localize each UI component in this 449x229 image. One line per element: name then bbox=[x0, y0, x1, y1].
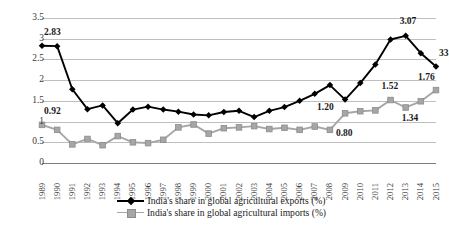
legend-swatch-imports bbox=[117, 208, 144, 217]
square-marker-icon bbox=[357, 108, 363, 114]
square-marker-icon bbox=[267, 126, 273, 132]
square-marker-icon bbox=[373, 108, 379, 114]
diamond-marker-icon bbox=[236, 108, 243, 115]
square-marker-icon bbox=[327, 127, 333, 133]
square-marker-icon bbox=[433, 87, 439, 93]
square-marker-icon bbox=[145, 140, 151, 146]
diamond-marker-icon bbox=[296, 98, 303, 105]
diamond-marker-icon bbox=[160, 106, 167, 113]
square-marker-icon bbox=[54, 127, 60, 133]
y-axis-tick-label: 2 bbox=[14, 75, 44, 85]
square-marker-icon bbox=[282, 125, 288, 131]
square-marker-icon bbox=[403, 105, 409, 111]
square-marker-icon bbox=[130, 139, 136, 145]
data-point-label: 0.92 bbox=[44, 107, 61, 117]
square-marker-icon bbox=[251, 123, 257, 129]
plot-area bbox=[42, 18, 436, 163]
y-axis-tick-label: 0 bbox=[14, 158, 44, 168]
diamond-marker-icon bbox=[205, 112, 212, 119]
chart-legend: India's share in global agricultural exp… bbox=[0, 196, 443, 217]
diamond-marker-icon bbox=[221, 109, 228, 116]
y-axis-tick-label: 3.5 bbox=[14, 13, 44, 23]
series-imports bbox=[39, 87, 439, 148]
square-marker-icon bbox=[70, 142, 76, 148]
data-point-label: 1.34 bbox=[402, 114, 419, 124]
diamond-marker-icon bbox=[281, 104, 288, 111]
legend-item-imports[interactable]: India's share in global agricultural imp… bbox=[117, 208, 326, 218]
series-exports bbox=[39, 33, 440, 127]
square-marker-icon bbox=[127, 209, 136, 218]
square-marker-icon bbox=[221, 125, 227, 131]
square-marker-icon bbox=[85, 136, 91, 142]
legend-item-exports[interactable]: India's share in global agricultural exp… bbox=[117, 196, 325, 206]
legend-label-exports: India's share in global agricultural exp… bbox=[147, 196, 325, 206]
diamond-marker-icon bbox=[39, 43, 46, 50]
data-point-label: 1.20 bbox=[317, 103, 334, 113]
diamond-marker-icon bbox=[54, 43, 61, 50]
series-layer bbox=[42, 18, 436, 163]
square-marker-icon bbox=[115, 133, 121, 139]
square-marker-icon bbox=[312, 124, 318, 130]
square-marker-icon bbox=[418, 98, 424, 104]
diamond-marker-icon bbox=[266, 108, 273, 115]
data-point-label: 33 bbox=[439, 49, 449, 59]
y-axis-tick-label: 1 bbox=[14, 117, 44, 127]
data-point-label: 2.83 bbox=[44, 28, 61, 38]
data-point-label: 1.52 bbox=[382, 82, 399, 92]
diamond-marker-icon bbox=[127, 197, 135, 205]
square-marker-icon bbox=[100, 142, 106, 148]
square-marker-icon bbox=[388, 97, 394, 103]
x-axis-line bbox=[42, 163, 436, 164]
diamond-marker-icon bbox=[251, 114, 258, 121]
y-axis-tick-label: 2.5 bbox=[14, 55, 44, 65]
square-marker-icon bbox=[160, 137, 166, 143]
data-point-label: 3.07 bbox=[400, 17, 417, 27]
data-point-label: 0.80 bbox=[336, 129, 353, 139]
diamond-marker-icon bbox=[190, 111, 197, 118]
diamond-marker-icon bbox=[175, 108, 182, 115]
y-axis-tick-label: 0.5 bbox=[14, 138, 44, 148]
square-marker-icon bbox=[206, 131, 212, 137]
y-axis-tick-label: 1.5 bbox=[14, 96, 44, 106]
legend-swatch-exports bbox=[117, 196, 144, 205]
y-axis-tick-label: 3 bbox=[14, 34, 44, 44]
square-marker-icon bbox=[236, 125, 242, 131]
square-marker-icon bbox=[297, 127, 303, 133]
series-line bbox=[42, 90, 436, 145]
diamond-marker-icon bbox=[145, 103, 152, 110]
square-marker-icon bbox=[191, 122, 197, 128]
square-marker-icon bbox=[342, 110, 348, 116]
data-point-label: 1.76 bbox=[418, 73, 435, 83]
legend-label-imports: India's share in global agricultural imp… bbox=[147, 208, 326, 218]
square-marker-icon bbox=[176, 125, 182, 131]
